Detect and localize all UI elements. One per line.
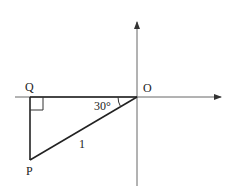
label-angle: 30° xyxy=(94,99,111,113)
label-hypotenuse: 1 xyxy=(79,137,85,151)
diagram-canvas: Q O P 30° 1 xyxy=(0,0,231,190)
label-q: Q xyxy=(25,80,34,94)
angle-arc xyxy=(118,97,121,107)
right-angle-marker xyxy=(30,97,43,110)
label-o: O xyxy=(143,81,152,95)
label-p: P xyxy=(26,164,33,178)
